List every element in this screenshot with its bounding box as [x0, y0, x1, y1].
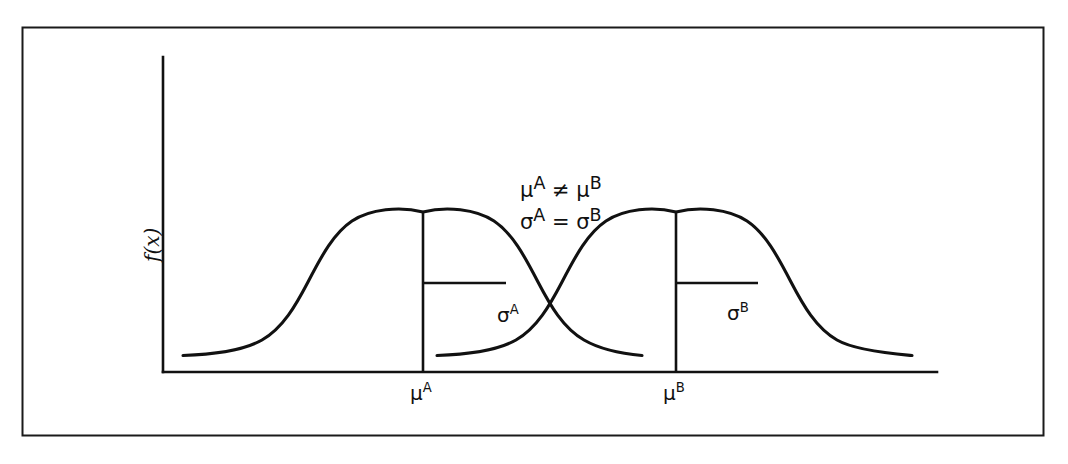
annotation-sigma-a-sup: A: [533, 205, 545, 225]
x-tick-label-mu-b: μB: [663, 383, 685, 403]
mu-b-label-base: μ: [663, 381, 676, 405]
sigma-a-label-sup: A: [510, 302, 519, 317]
annotation-line-mu: μA ≠ μB: [520, 172, 602, 204]
annotation-mu-b-sup: B: [590, 173, 602, 193]
x-tick-label-mu-a: μA: [410, 383, 432, 403]
mu-a-label-base: μ: [410, 381, 423, 405]
sigma-b-label-base: σ: [727, 301, 740, 325]
sigma-a-label: σA: [497, 305, 519, 325]
condition-annotation: μA ≠ μB σA = σB: [520, 172, 602, 237]
annotation-sigma-b-sup: B: [590, 205, 602, 225]
annotation-mu-a-base: μ: [520, 178, 533, 202]
mu-a-label-sup: A: [423, 380, 432, 395]
annotation-sigma-relation: =: [545, 210, 576, 234]
annotation-sigma-b-base: σ: [576, 210, 589, 234]
mu-b-label-sup: B: [676, 380, 685, 395]
annotation-mu-a-sup: A: [533, 173, 545, 193]
annotation-line-sigma: σA = σB: [520, 204, 602, 236]
sigma-b-label-sup: B: [740, 300, 749, 315]
figure-root: f(x) μA ≠ μB σA = σB σA σB μA μB: [0, 0, 1068, 464]
annotation-sigma-a-base: σ: [520, 210, 533, 234]
y-axis-label: f(x): [142, 228, 162, 262]
annotation-mu-b-base: μ: [576, 178, 589, 202]
sigma-b-label: σB: [727, 303, 749, 323]
annotation-mu-relation: ≠: [545, 178, 576, 202]
sigma-a-label-base: σ: [497, 303, 510, 327]
